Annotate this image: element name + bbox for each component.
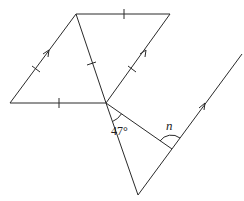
geometry-diagram: 47° n	[0, 0, 244, 201]
angle-label-n: n	[166, 118, 173, 133]
angle-label-47: 47°	[111, 124, 128, 138]
angle-arc-n	[160, 135, 180, 141]
segment-db	[106, 14, 170, 103]
segment-de	[106, 103, 138, 195]
parallel-arrow-icon-ca	[43, 50, 49, 57]
segment-ef	[138, 54, 242, 195]
segment-ad	[76, 14, 106, 103]
angle-arc-47	[113, 114, 122, 122]
tick-mark-ad	[87, 62, 96, 65]
segment-ca	[10, 14, 76, 103]
